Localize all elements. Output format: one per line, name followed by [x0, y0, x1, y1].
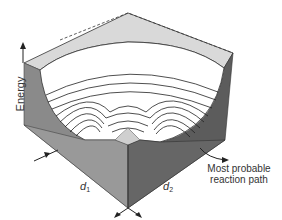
energy-surface-drawing — [0, 0, 282, 220]
d1-axis-label: d1 — [80, 180, 90, 193]
d2-subscript: 2 — [169, 186, 173, 193]
energy-axis-arrow-icon — [20, 42, 26, 63]
reaction-path-label: Most probable reaction path — [199, 163, 279, 185]
d2-axis-arrow-icon — [128, 208, 142, 218]
potential-energy-surface-figure: Energy d1 d2 Most probable reaction path — [0, 0, 282, 220]
reaction-path-label-line1: Most probable — [199, 163, 279, 174]
d1-axis-arrow-icon — [114, 208, 128, 218]
d1-subscript: 1 — [86, 186, 90, 193]
d2-axis-label: d2 — [163, 180, 173, 193]
energy-axis-label: Energy — [14, 72, 26, 116]
reaction-path-start-arrow-icon — [34, 150, 58, 161]
reaction-path-label-line2: reaction path — [199, 174, 279, 185]
